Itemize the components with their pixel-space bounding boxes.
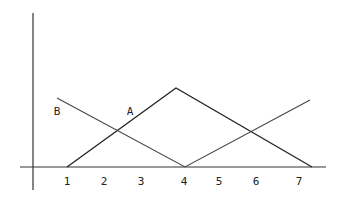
x-tick-7: 7 bbox=[296, 176, 303, 187]
fuzzy-membership-diagram: B A 1 2 3 4 5 6 7 bbox=[0, 0, 345, 205]
x-tick-3: 3 bbox=[138, 176, 145, 187]
x-tick-4: 4 bbox=[181, 176, 188, 187]
line-a-label: A bbox=[127, 106, 134, 117]
line-b bbox=[57, 98, 310, 167]
diagram-canvas bbox=[0, 0, 345, 205]
line-a bbox=[67, 88, 312, 167]
x-tick-5: 5 bbox=[216, 176, 223, 187]
x-tick-6: 6 bbox=[253, 176, 260, 187]
line-b-label: B bbox=[54, 106, 61, 117]
x-tick-2: 2 bbox=[101, 176, 108, 187]
x-tick-1: 1 bbox=[64, 176, 71, 187]
